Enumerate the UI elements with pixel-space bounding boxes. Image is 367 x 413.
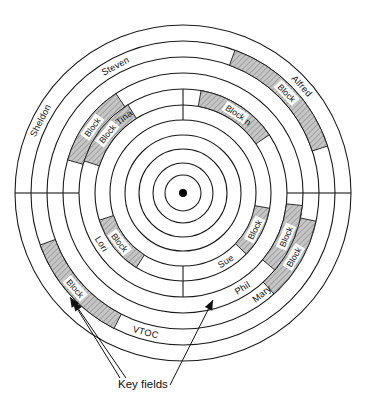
- spindle-hub-dot: [179, 189, 187, 197]
- block-segment-track-2-0: [230, 50, 328, 151]
- disk-track-diagram: AlfredSheldonStevenVTOCMaryPhilTinaJohnL…: [0, 0, 367, 413]
- key-fields-callout-label: Key fields: [118, 378, 168, 390]
- track-label-steven: Steven: [100, 55, 131, 78]
- diagram-canvas: AlfredSheldonStevenVTOCMaryPhilTinaJohnL…: [0, 0, 367, 413]
- track-label-sue: Sue: [216, 253, 236, 270]
